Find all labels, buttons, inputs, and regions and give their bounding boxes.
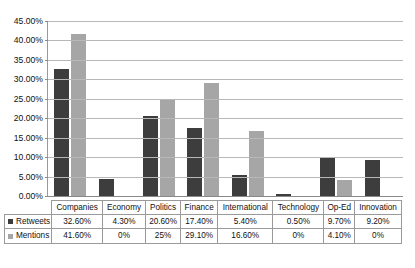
bar-retweets-politics bbox=[143, 116, 158, 196]
bar-chart-with-data-table: 45.00%40.00%35.00%30.00%25.00%20.00%15.0… bbox=[0, 0, 415, 268]
y-axis-tick bbox=[45, 196, 48, 197]
table-cell: 0% bbox=[103, 229, 146, 243]
gridline bbox=[48, 99, 403, 100]
legend-swatch-icon bbox=[8, 219, 13, 224]
table-column-header: Economy bbox=[103, 201, 146, 215]
legend-entry-retweets: Retweets bbox=[5, 215, 52, 229]
gridline bbox=[48, 60, 403, 61]
y-axis-tick-label: 45.00% bbox=[14, 17, 43, 26]
gridline bbox=[48, 196, 403, 197]
bar-group bbox=[92, 21, 136, 196]
bar-group bbox=[181, 21, 225, 196]
y-axis-tick bbox=[45, 21, 48, 22]
table-cell: 9.70% bbox=[324, 215, 355, 229]
y-axis-tick-label: 25.00% bbox=[14, 94, 43, 103]
table-cell: 0% bbox=[355, 229, 402, 243]
table-cell: 9.20% bbox=[355, 215, 402, 229]
table-column-header: International bbox=[218, 201, 273, 215]
y-axis-tick-label: 5.00% bbox=[19, 172, 43, 181]
y-axis-tick-label: 15.00% bbox=[14, 133, 43, 142]
y-axis-tick bbox=[45, 99, 48, 100]
legend-label: Retweets bbox=[16, 217, 50, 226]
table-cell: 25% bbox=[145, 229, 180, 243]
gridline bbox=[48, 21, 403, 22]
bar-group bbox=[137, 21, 181, 196]
gridline bbox=[48, 118, 403, 119]
bar-group bbox=[226, 21, 270, 196]
y-axis-tick-label: 20.00% bbox=[14, 114, 43, 123]
table-column-header: Innovation bbox=[355, 201, 402, 215]
y-axis-tick bbox=[45, 79, 48, 80]
gridline bbox=[48, 157, 403, 158]
legend-swatch-icon bbox=[8, 234, 13, 239]
table-cell: 5.40% bbox=[218, 215, 273, 229]
table-column-header: Finance bbox=[181, 201, 218, 215]
y-axis-tick bbox=[45, 138, 48, 139]
data-table-body: Retweets32.60%4.30%20.60%17.40%5.40%0.50… bbox=[5, 215, 402, 244]
table-column-header: Op-Ed bbox=[324, 201, 355, 215]
y-axis-labels: 45.00%40.00%35.00%30.00%25.00%20.00%15.0… bbox=[0, 0, 46, 200]
y-axis-tick bbox=[45, 60, 48, 61]
table-column-header: Technology bbox=[273, 201, 324, 215]
plot-area: 45.00%40.00%35.00%30.00%25.00%20.00%15.0… bbox=[0, 0, 415, 200]
plot-canvas bbox=[47, 21, 402, 196]
data-table-head: CompaniesEconomyPoliticsFinanceInternati… bbox=[5, 201, 402, 215]
gridline bbox=[48, 79, 403, 80]
bar-mentions-op-ed bbox=[337, 180, 352, 196]
table-cell: 29.10% bbox=[181, 229, 218, 243]
table-cell: 17.40% bbox=[181, 215, 218, 229]
bar-mentions-international bbox=[249, 131, 264, 196]
legend-label: Mentions bbox=[16, 232, 49, 241]
bar-mentions-finance bbox=[204, 83, 219, 196]
gridline bbox=[48, 138, 403, 139]
y-axis-tick-label: 0.00% bbox=[19, 192, 43, 201]
table-column-header: Politics bbox=[145, 201, 180, 215]
bar-retweets-economy bbox=[99, 179, 114, 196]
y-axis-tick bbox=[45, 40, 48, 41]
y-axis-tick-label: 35.00% bbox=[14, 56, 43, 65]
table-cell: 4.10% bbox=[324, 229, 355, 243]
bar-group bbox=[48, 21, 92, 196]
y-axis-tick bbox=[45, 157, 48, 158]
table-cell: 0% bbox=[273, 229, 324, 243]
table-corner-cell bbox=[5, 201, 52, 215]
y-axis-tick-label: 30.00% bbox=[14, 75, 43, 84]
data-table: CompaniesEconomyPoliticsFinanceInternati… bbox=[4, 200, 402, 244]
gridline bbox=[48, 40, 403, 41]
table-cell: 16.60% bbox=[218, 229, 273, 243]
y-axis-tick-label: 10.00% bbox=[14, 153, 43, 162]
y-axis-tick bbox=[45, 118, 48, 119]
legend-entry-mentions: Mentions bbox=[5, 229, 52, 243]
y-axis-tick-label: 40.00% bbox=[14, 36, 43, 45]
table-cell: 41.60% bbox=[52, 229, 103, 243]
bar-group bbox=[314, 21, 358, 196]
y-axis-tick bbox=[45, 177, 48, 178]
bar-groups bbox=[48, 21, 403, 196]
table-column-header: Companies bbox=[52, 201, 103, 215]
bar-mentions-politics bbox=[160, 99, 175, 196]
table-header-row: CompaniesEconomyPoliticsFinanceInternati… bbox=[5, 201, 402, 215]
table-cell: 4.30% bbox=[103, 215, 146, 229]
bar-group bbox=[270, 21, 314, 196]
bar-retweets-international bbox=[232, 175, 247, 196]
table-row: Retweets32.60%4.30%20.60%17.40%5.40%0.50… bbox=[5, 215, 402, 229]
bar-retweets-innovation bbox=[365, 160, 380, 196]
table-cell: 32.60% bbox=[52, 215, 103, 229]
table-row: Mentions41.60%0%25%29.10%16.60%0%4.10%0% bbox=[5, 229, 402, 243]
table-cell: 20.60% bbox=[145, 215, 180, 229]
bar-group bbox=[359, 21, 403, 196]
bar-mentions-companies bbox=[71, 34, 86, 196]
table-cell: 0.50% bbox=[273, 215, 324, 229]
gridline bbox=[48, 177, 403, 178]
